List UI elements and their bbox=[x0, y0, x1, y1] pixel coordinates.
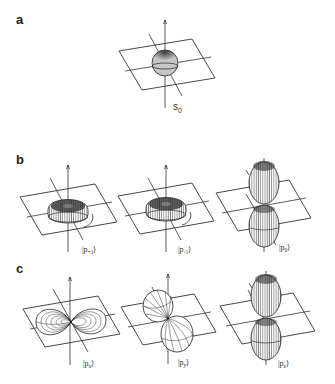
panel-b: b |p+1⟩ bbox=[16, 152, 311, 255]
ket-label-p-y: |py⟩ bbox=[178, 358, 189, 368]
p-z-diagram: |pz⟩ bbox=[220, 271, 315, 369]
torus-hole bbox=[63, 204, 73, 208]
panel-label-b: b bbox=[16, 152, 24, 167]
p-y-diagram: |py⟩ bbox=[121, 274, 216, 368]
orbital-figure: a s0 b bbox=[0, 0, 335, 384]
upper-lobe-shading bbox=[253, 161, 275, 171]
panel-c: c |px⟩ bbox=[16, 261, 315, 369]
lower-lobe-shading bbox=[255, 318, 277, 326]
p-plus-1-diagram: |p+1⟩ bbox=[20, 165, 117, 255]
panel-label-c: c bbox=[16, 261, 23, 276]
s0-label: s0 bbox=[173, 101, 182, 114]
torus-hole bbox=[161, 202, 171, 206]
lower-lobe-shading bbox=[253, 205, 275, 213]
ket-label-p-x: |px⟩ bbox=[83, 359, 94, 369]
panel-label-a: a bbox=[16, 12, 24, 27]
s-orbital-diagram: s0 bbox=[119, 20, 215, 114]
upper-lobe-shading bbox=[255, 274, 277, 284]
p-minus-1-diagram: |p-1⟩ bbox=[118, 165, 214, 255]
ket-label-p-0: |p0⟩ bbox=[279, 243, 290, 253]
back-lobe-shape bbox=[143, 290, 173, 322]
ket-label-p-plus-1: |p+1⟩ bbox=[82, 245, 96, 255]
ket-label-p-minus-1: |p-1⟩ bbox=[178, 245, 191, 255]
p-0-diagram: |p0⟩ bbox=[216, 158, 311, 253]
left-lobe-shape bbox=[36, 309, 71, 335]
p-x-diagram: |px⟩ bbox=[23, 277, 120, 369]
ket-label-p-z: |pz⟩ bbox=[278, 359, 289, 369]
y-axis-tip bbox=[246, 170, 249, 175]
panel-a: a s0 bbox=[16, 12, 215, 114]
y-axis-tip bbox=[249, 283, 252, 288]
sphere-shading bbox=[154, 50, 176, 64]
